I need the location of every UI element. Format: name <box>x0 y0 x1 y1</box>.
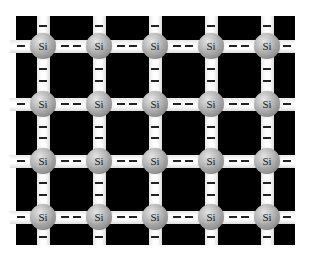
vertical-bond <box>205 57 218 93</box>
silicon-atom: Si <box>254 91 280 117</box>
electron-icon <box>151 80 159 82</box>
electron-icon <box>241 216 249 218</box>
horizontal-bond <box>222 155 256 168</box>
vertical-bond <box>261 115 274 150</box>
atom-label: Si <box>151 41 160 52</box>
electron-icon <box>241 103 249 105</box>
electron-icon <box>263 68 271 70</box>
electron-icon <box>73 103 81 105</box>
electron-icon <box>185 216 193 218</box>
horizontal-bond <box>110 40 144 53</box>
electron-icon <box>229 103 237 105</box>
atom-label: Si <box>151 156 160 167</box>
electron-icon <box>263 236 271 238</box>
electron-icon <box>207 126 215 128</box>
atom-label: Si <box>263 41 272 52</box>
electron-icon <box>207 25 215 27</box>
atom-label: Si <box>263 99 272 110</box>
silicon-atom: Si <box>30 148 56 174</box>
silicon-atom: Si <box>30 33 56 59</box>
electron-icon <box>151 182 159 184</box>
electron-icon <box>39 126 47 128</box>
atom-label: Si <box>207 212 216 223</box>
electron-icon <box>95 137 103 139</box>
electron-icon <box>207 137 215 139</box>
atom-label: Si <box>151 212 160 223</box>
horizontal-bond <box>10 40 32 53</box>
vertical-bond <box>261 172 274 206</box>
electron-icon <box>283 216 291 218</box>
vertical-bond <box>205 228 218 245</box>
electron-icon <box>151 126 159 128</box>
electron-icon <box>173 216 181 218</box>
electron-icon <box>39 137 47 139</box>
electron-icon <box>151 194 159 196</box>
electron-icon <box>263 194 271 196</box>
electron-icon <box>207 236 215 238</box>
electron-icon <box>151 68 159 70</box>
silicon-atom: Si <box>86 91 112 117</box>
vertical-bond <box>149 172 162 206</box>
electron-icon <box>73 45 81 47</box>
electron-icon <box>95 80 103 82</box>
silicon-atom: Si <box>142 91 168 117</box>
horizontal-bond <box>110 211 144 224</box>
horizontal-bond <box>222 98 256 111</box>
silicon-atom: Si <box>198 204 224 230</box>
electron-icon <box>185 45 193 47</box>
silicon-atom: Si <box>142 204 168 230</box>
vertical-bond <box>93 228 106 245</box>
horizontal-bond <box>166 98 200 111</box>
horizontal-bond <box>10 155 32 168</box>
electron-icon <box>17 216 25 218</box>
electron-icon <box>173 103 181 105</box>
electron-icon <box>129 45 137 47</box>
electron-icon <box>241 45 249 47</box>
vertical-bond <box>37 57 50 93</box>
electron-icon <box>117 216 125 218</box>
electron-icon <box>283 45 291 47</box>
silicon-atom: Si <box>254 204 280 230</box>
silicon-atom: Si <box>254 33 280 59</box>
electron-icon <box>207 80 215 82</box>
atom-label: Si <box>95 212 104 223</box>
silicon-atom: Si <box>254 148 280 174</box>
electron-icon <box>17 103 25 105</box>
electron-icon <box>73 160 81 162</box>
electron-icon <box>39 80 47 82</box>
horizontal-bond <box>222 211 256 224</box>
electron-icon <box>185 103 193 105</box>
electron-icon <box>17 45 25 47</box>
vertical-bond <box>37 228 50 245</box>
electron-icon <box>95 25 103 27</box>
horizontal-bond <box>54 155 88 168</box>
vertical-bond <box>93 115 106 150</box>
electron-icon <box>207 194 215 196</box>
electron-icon <box>129 103 137 105</box>
vertical-bond <box>205 172 218 206</box>
electron-icon <box>241 160 249 162</box>
vertical-bond <box>149 57 162 93</box>
electron-icon <box>39 25 47 27</box>
atom-label: Si <box>151 99 160 110</box>
silicon-atom: Si <box>142 33 168 59</box>
electron-icon <box>151 137 159 139</box>
electron-icon <box>263 182 271 184</box>
atom-label: Si <box>95 156 104 167</box>
silicon-atom: Si <box>30 204 56 230</box>
electron-icon <box>263 80 271 82</box>
silicon-lattice-diagram: SiSiSiSiSiSiSiSiSiSiSiSiSiSiSiSiSiSiSiSi <box>0 0 315 260</box>
horizontal-bond <box>54 211 88 224</box>
electron-icon <box>95 236 103 238</box>
electron-icon <box>173 160 181 162</box>
atom-label: Si <box>207 41 216 52</box>
vertical-bond <box>149 228 162 245</box>
horizontal-bond <box>278 155 295 168</box>
atom-label: Si <box>39 212 48 223</box>
atom-label: Si <box>95 99 104 110</box>
atom-label: Si <box>207 156 216 167</box>
electron-icon <box>129 160 137 162</box>
vertical-bond <box>93 172 106 206</box>
electron-icon <box>39 182 47 184</box>
electron-icon <box>207 182 215 184</box>
